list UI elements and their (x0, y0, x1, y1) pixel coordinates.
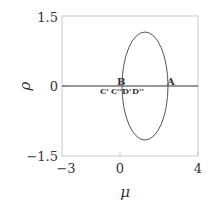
xtick-mid: 0 (116, 161, 124, 176)
ytick-mid: 0 (50, 79, 58, 94)
label-C1: C' (100, 86, 109, 96)
tick-marks (62, 86, 198, 156)
ytick-top: 1.5 (37, 10, 58, 25)
ytick-bottom: −1.5 (26, 149, 58, 164)
y-axis-label: ρ (16, 81, 34, 91)
xtick-left: −3 (56, 161, 75, 176)
label-D2: D'' (132, 86, 144, 96)
label-C2: C'' (111, 86, 122, 96)
chart: 1.5 0 −1.5 −3 0 4 μ ρ A B C' C'' D' D'' (0, 0, 211, 208)
xtick-right: 4 (194, 161, 202, 176)
x-axis-label: μ (120, 183, 130, 201)
label-D1: D' (122, 86, 131, 96)
label-A: A (166, 76, 175, 87)
